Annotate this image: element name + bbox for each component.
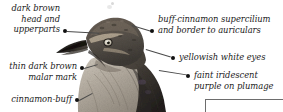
annotation-label-faint-iridescent-purple: faint iridescent purple on plumage xyxy=(194,70,283,91)
leader-bullet-yellowish-white-eyes xyxy=(171,56,175,60)
leader-bullet-cinnamon-buff xyxy=(75,98,79,102)
annotation-label-buff-cinnamon-supercilium: buff-cinnamon supercilium and border to … xyxy=(158,14,283,35)
annotation-label-thin-dark-brown-malar: thin dark brown malar mark xyxy=(1,61,77,82)
leader-bullet-dark-brown-head xyxy=(63,29,67,33)
annotation-label-yellowish-white-eyes: yellowish white eyes xyxy=(179,52,283,63)
annotation-label-cinnamon-buff: cinnamon-buff xyxy=(1,94,72,105)
annotated-bird-figure: dark brown head and upperpartsbuff-cinna… xyxy=(0,0,283,112)
scan-speckle xyxy=(111,2,114,5)
inset-caption-box xyxy=(205,99,283,112)
leader-bullet-buff-cinnamon-supercilium xyxy=(150,29,154,33)
leader-bullet-faint-iridescent-purple xyxy=(186,74,190,78)
annotation-label-dark-brown-head: dark brown head and upperparts xyxy=(4,3,60,35)
leader-bullet-thin-dark-brown-malar xyxy=(80,66,84,70)
